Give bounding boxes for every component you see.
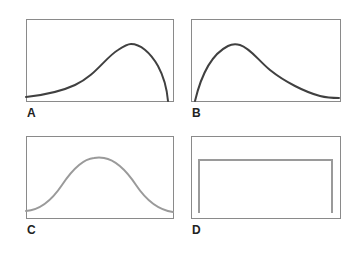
panel-b-frame (192, 20, 341, 102)
panel-d-label: D (192, 224, 201, 236)
panel-b-right-skewed-curve (195, 44, 339, 101)
panel-d (192, 137, 341, 219)
panel-d-uniform-outline (199, 160, 332, 213)
panel-c-label: C (27, 224, 36, 236)
panel-b-label: B (192, 107, 201, 119)
panel-a-label: A (27, 107, 36, 119)
panel-a (26, 20, 174, 102)
panel-a-frame (27, 20, 174, 102)
panel-c-frame (27, 137, 174, 219)
panel-c-bell-curve (26, 158, 173, 212)
panel-c (26, 137, 174, 219)
panel-b (192, 20, 341, 102)
distribution-figure (0, 0, 357, 254)
panel-a-left-skewed-curve (26, 44, 168, 101)
panel-d-frame (192, 137, 341, 219)
